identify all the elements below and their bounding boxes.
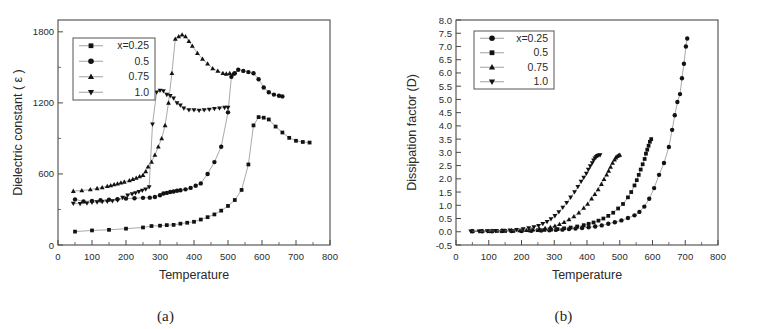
- marker-triangle-down: [71, 202, 76, 206]
- y-tick-label: 1200: [33, 97, 54, 108]
- x-tick-label: 300: [152, 251, 168, 262]
- marker-triangle-up: [166, 100, 171, 104]
- marker-square: [199, 218, 203, 222]
- marker-triangle-down: [579, 180, 584, 184]
- marker-triangle-down: [552, 214, 557, 218]
- marker-circle: [662, 161, 666, 165]
- marker-triangle-down: [175, 101, 180, 105]
- chart-panel-b: 0100200300400500600700800-0.50.00.51.01.…: [388, 0, 775, 329]
- marker-triangle-down: [168, 94, 173, 98]
- marker-triangle-up: [152, 152, 157, 156]
- y-tick-label: 5.0: [439, 94, 452, 105]
- marker-square: [185, 221, 189, 225]
- plot-area: 0100200300400500600700800060012001800Tem…: [11, 20, 338, 282]
- marker-circle: [199, 181, 203, 185]
- x-tick-label: 600: [254, 251, 270, 262]
- marker-triangle-up: [169, 71, 174, 75]
- series-line: [472, 139, 651, 231]
- marker-triangle-up: [599, 182, 604, 186]
- y-tick-label: 2.0: [439, 173, 452, 184]
- marker-triangle-up: [173, 36, 178, 40]
- caption-a: (a): [0, 308, 359, 325]
- x-tick-label: 100: [84, 251, 100, 262]
- x-tick-label: 800: [322, 251, 338, 262]
- marker-square: [308, 141, 312, 145]
- marker-circle: [637, 210, 641, 214]
- marker-square: [257, 115, 261, 119]
- marker-square: [226, 204, 230, 208]
- marker-circle: [132, 196, 136, 200]
- marker-square: [247, 163, 251, 167]
- marker-circle: [642, 204, 646, 208]
- marker-triangle-up: [557, 222, 562, 226]
- marker-square: [575, 225, 579, 229]
- marker-triangle-down: [575, 185, 580, 189]
- marker-circle: [670, 128, 674, 132]
- y-tick-label: 1.0: [439, 200, 452, 211]
- marker-square: [141, 226, 145, 230]
- y-tick-label: 7.0: [439, 41, 452, 52]
- marker-circle: [246, 70, 250, 74]
- marker-triangle-up: [606, 168, 611, 172]
- marker-square: [294, 139, 298, 143]
- marker-square: [192, 220, 196, 224]
- marker-square: [301, 140, 305, 144]
- marker-square: [635, 178, 639, 182]
- x-tick-label: 200: [118, 251, 134, 262]
- x-tick-label: 300: [546, 251, 562, 262]
- marker-triangle-down: [549, 217, 554, 221]
- marker-triangle-up: [571, 214, 576, 218]
- marker-circle: [212, 160, 216, 164]
- marker-triangle-up: [608, 164, 613, 168]
- marker-square: [267, 118, 271, 122]
- y-tick-label: 6.0: [439, 67, 452, 78]
- x-tick-label: 700: [677, 251, 693, 262]
- marker-triangle-up: [156, 144, 161, 148]
- marker-square: [587, 222, 591, 226]
- legend: x=0.250.50.751.0: [73, 38, 155, 100]
- marker-square: [629, 190, 633, 194]
- marker-circle: [280, 94, 284, 98]
- marker-triangle-up: [159, 136, 164, 140]
- marker-triangle-down: [78, 202, 83, 206]
- y-tick-label: 4.5: [439, 107, 452, 118]
- marker-circle: [680, 76, 684, 80]
- x-axis-title: Temperature: [159, 268, 229, 282]
- legend: x=0.250.50.751.0: [474, 31, 554, 89]
- y-tick-label: 3.5: [439, 134, 452, 145]
- marker-circle: [226, 110, 230, 114]
- x-tick-label: 100: [481, 251, 497, 262]
- legend-label: 1.0: [533, 75, 548, 87]
- marker-circle: [619, 218, 623, 222]
- marker-square: [644, 152, 648, 156]
- marker-square: [643, 157, 647, 161]
- marker-square: [89, 43, 94, 48]
- marker-circle: [219, 145, 223, 149]
- marker-triangle-up: [180, 32, 185, 36]
- marker-square: [556, 227, 560, 231]
- series-0: [73, 115, 311, 233]
- marker-triangle-up: [215, 68, 220, 72]
- marker-circle: [606, 222, 610, 226]
- y-tick-label: 2.5: [439, 160, 452, 171]
- marker-triangle-up: [163, 123, 168, 127]
- x-tick-label: 400: [579, 251, 595, 262]
- marker-square: [262, 116, 266, 120]
- marker-square: [252, 124, 256, 128]
- legend-label: x=0.25: [117, 39, 149, 51]
- legend-label: 1.0: [134, 86, 149, 98]
- marker-circle: [178, 188, 182, 192]
- x-tick-label: 600: [645, 251, 661, 262]
- y-tick-label: 1.5: [439, 187, 452, 198]
- y-tick-label: 7.5: [439, 28, 452, 39]
- marker-square: [597, 219, 601, 223]
- marker-square: [165, 223, 169, 227]
- marker-square: [281, 131, 285, 135]
- y-tick-label: 6.5: [439, 54, 452, 65]
- y-tick-label: 0: [49, 240, 54, 251]
- dielectric-constant-chart: 0100200300400500600700800060012001800Tem…: [0, 0, 387, 300]
- marker-square: [150, 224, 154, 228]
- legend-label: 0.5: [134, 55, 149, 67]
- marker-square: [172, 223, 176, 227]
- marker-triangle-down: [147, 185, 152, 189]
